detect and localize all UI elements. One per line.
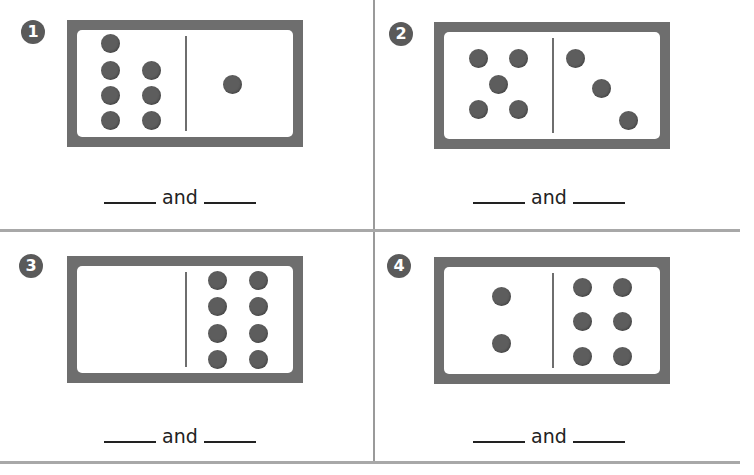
pip	[142, 111, 161, 130]
blank-left[interactable]	[104, 441, 156, 443]
blank-left[interactable]	[104, 202, 156, 204]
domino-face	[77, 266, 293, 373]
connector-text: and	[531, 186, 567, 208]
problem-1: 1 and	[0, 0, 372, 230]
answer-line: and	[104, 425, 256, 447]
pip	[208, 324, 227, 343]
problem-number-badge: 2	[389, 22, 413, 46]
problem-2: 2 and	[377, 0, 749, 230]
pip	[492, 287, 511, 306]
pip	[208, 350, 227, 369]
pip	[142, 61, 161, 80]
blank-left[interactable]	[473, 441, 525, 443]
pip	[489, 75, 508, 94]
pip	[573, 347, 592, 366]
problem-3: 3 and	[0, 237, 372, 467]
pip	[142, 86, 161, 105]
pip	[619, 111, 638, 130]
domino-face	[77, 30, 293, 137]
problem-4: 4 and	[377, 237, 749, 467]
pip	[509, 49, 528, 68]
blank-right[interactable]	[573, 441, 625, 443]
pip	[613, 278, 632, 297]
domino-face	[444, 267, 660, 374]
pip	[613, 312, 632, 331]
pip	[566, 49, 585, 68]
answer-line: and	[473, 186, 625, 208]
domino-divider	[552, 273, 554, 368]
domino	[434, 22, 670, 149]
blank-left[interactable]	[473, 202, 525, 204]
pip	[249, 324, 268, 343]
problem-number-badge: 3	[19, 254, 43, 278]
pip	[573, 278, 592, 297]
domino	[67, 20, 303, 147]
domino-divider	[185, 36, 187, 131]
pip	[613, 347, 632, 366]
pip	[223, 75, 242, 94]
blank-right[interactable]	[204, 441, 256, 443]
domino-divider	[185, 272, 187, 367]
pip	[101, 34, 120, 53]
pip	[208, 271, 227, 290]
answer-line: and	[473, 425, 625, 447]
pip	[469, 49, 488, 68]
blank-right[interactable]	[204, 202, 256, 204]
pip	[101, 111, 120, 130]
domino-face	[444, 32, 660, 139]
domino	[434, 257, 670, 384]
pip	[592, 79, 611, 98]
pip	[208, 297, 227, 316]
pip	[573, 312, 592, 331]
pip	[469, 100, 488, 119]
pip	[249, 271, 268, 290]
domino	[67, 256, 303, 383]
connector-text: and	[162, 186, 198, 208]
pip	[101, 86, 120, 105]
pip	[509, 100, 528, 119]
pip	[492, 334, 511, 353]
domino-divider	[552, 38, 554, 133]
problem-number-badge: 1	[21, 20, 45, 44]
blank-right[interactable]	[573, 202, 625, 204]
pip	[249, 297, 268, 316]
problem-number-badge: 4	[387, 254, 411, 278]
pip	[249, 350, 268, 369]
connector-text: and	[531, 425, 567, 447]
connector-text: and	[162, 425, 198, 447]
answer-line: and	[104, 186, 256, 208]
pip	[101, 61, 120, 80]
